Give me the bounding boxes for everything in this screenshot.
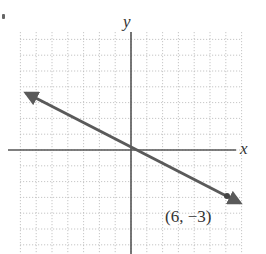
point-label: (6, −3) (165, 207, 211, 226)
data-line (26, 93, 240, 203)
point-6-neg3 (224, 193, 230, 199)
coordinate-plane: x y (6, −3) (0, 0, 266, 254)
x-axis-label: x (239, 139, 248, 158)
y-axis-label: y (121, 12, 131, 31)
